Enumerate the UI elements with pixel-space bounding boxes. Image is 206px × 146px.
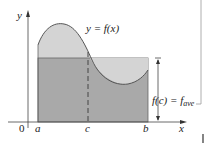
y-axis-arrow-icon	[26, 10, 30, 17]
tick-label-b: b	[143, 122, 149, 134]
y-axis-label: y	[16, 9, 22, 21]
height-label: f(c) = fave	[152, 94, 195, 108]
arrow-down-icon	[156, 116, 160, 121]
tick-label-a: a	[35, 122, 41, 134]
arrow-up-icon	[156, 59, 160, 64]
tick-label-c: c	[85, 122, 90, 134]
curve-label: y = f(x)	[85, 22, 119, 35]
x-axis-label: x	[178, 122, 184, 134]
mean-value-theorem-figure: y y = f(x) f(c) = fave 0 a c b x	[0, 0, 206, 146]
origin-label: 0	[19, 122, 25, 134]
